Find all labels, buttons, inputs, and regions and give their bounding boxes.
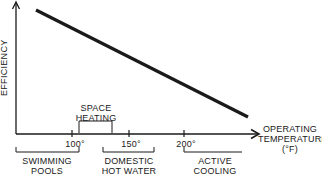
domestic-hot-water-label: DOMESTIC HOT WATER [98, 156, 160, 176]
space-heating-line2: HEATING [73, 113, 119, 123]
swimming-line1: SWIMMING [17, 156, 77, 166]
space-heating-label: SPACE HEATING [73, 103, 119, 123]
x-axis-label-line1: OPERATING [258, 124, 322, 134]
tick-label-200: 200° [166, 139, 206, 149]
x-axis-label-line3: (°F) [258, 144, 322, 154]
efficiency-line [36, 10, 248, 117]
domestic-line2: HOT WATER [98, 166, 160, 176]
cooling-line2: COOLING [190, 166, 240, 176]
tick-label-100: 100° [55, 139, 95, 149]
cooling-line1: ACTIVE [190, 156, 240, 166]
domestic-line1: DOMESTIC [98, 156, 160, 166]
x-axis-label-line2: TEMPERATURE [258, 134, 322, 144]
space-heating-line1: SPACE [73, 103, 119, 113]
y-axis-label: EFFICIENCY [0, 46, 9, 96]
tick-label-150: 150° [111, 139, 151, 149]
x-axis-label: OPERATING TEMPERATURE (°F) [258, 124, 322, 154]
swimming-pools-label: SWIMMING POOLS [17, 156, 77, 176]
swimming-line2: POOLS [17, 166, 77, 176]
active-cooling-label: ACTIVE COOLING [190, 156, 240, 176]
